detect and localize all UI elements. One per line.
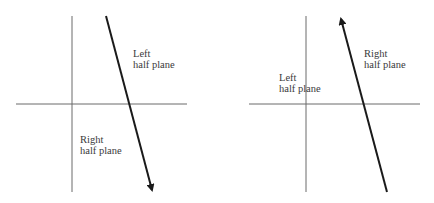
right-panel [249,16,420,192]
label-line: half plane [364,59,406,70]
diagram-canvas [0,0,434,203]
right-panel-left-label: Left half plane [279,72,321,94]
label-line: half plane [133,59,175,70]
half-plane-diagrams: Left half plane Right half plane Right h… [0,0,434,203]
right-panel-upper-label: Right half plane [364,48,406,70]
label-line: Right [364,48,406,59]
right-upward-arrow [341,19,387,192]
left-panel-lower-label: Right half plane [80,134,122,156]
label-line: half plane [279,83,321,94]
label-line: Left [279,72,321,83]
left-downward-arrow [106,16,152,190]
left-panel-upper-label: Left half plane [133,48,175,70]
label-line: half plane [80,145,122,156]
left-panel [16,16,187,192]
label-line: Left [133,48,175,59]
label-line: Right [80,134,122,145]
